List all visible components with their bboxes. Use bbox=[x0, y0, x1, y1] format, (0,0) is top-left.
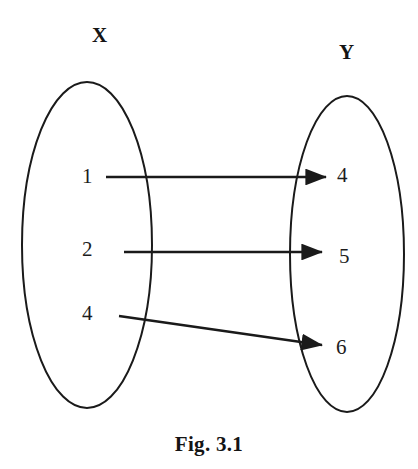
codomain-element-1: 4 bbox=[337, 165, 348, 186]
domain-element-3: 4 bbox=[82, 303, 93, 324]
figure-caption: Fig. 3.1 bbox=[0, 432, 418, 457]
figure-container: X Y 1 2 4 4 5 6 Fig. 3.1 bbox=[0, 0, 418, 469]
mapping-diagram-canvas bbox=[0, 0, 418, 469]
domain-element-1: 1 bbox=[82, 166, 93, 187]
domain-set-label: X bbox=[92, 25, 108, 46]
codomain-element-2: 5 bbox=[339, 246, 350, 267]
codomain-element-3: 6 bbox=[336, 337, 347, 358]
codomain-set-label: Y bbox=[339, 42, 355, 63]
domain-element-2: 2 bbox=[82, 239, 93, 260]
mapping-arrow-4-to-6 bbox=[119, 316, 322, 345]
